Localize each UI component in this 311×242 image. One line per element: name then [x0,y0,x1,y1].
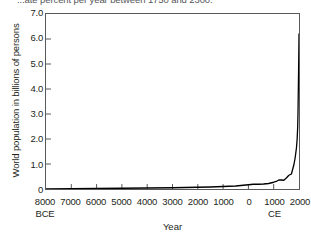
y-tick-label: 3.0 [3,109,43,119]
x-tick-label: 2000 [280,196,311,207]
caption-text: ...ate percent per year between 1750 and… [0,0,311,6]
y-tick-label: 4.0 [3,84,43,94]
x-axis-title: Year [45,221,300,232]
y-tick-label: 1.0 [3,160,43,170]
figure-container: ...ate percent per year between 1750 and… [0,0,311,242]
x-era-label: CE [255,208,295,219]
population-curve [46,34,299,189]
y-tick-label: 2.0 [3,134,43,144]
x-era-label: BCE [25,208,65,219]
y-tick-label: 6.0 [3,33,43,43]
y-tick-label: 5.0 [3,59,43,69]
y-tick-label: 0 [3,185,43,195]
y-tick-label: 7.0 [3,8,43,18]
caption-strip: ...ate percent per year between 1750 and… [0,0,311,6]
plot-area [45,13,300,190]
population-line-chart [46,14,299,189]
